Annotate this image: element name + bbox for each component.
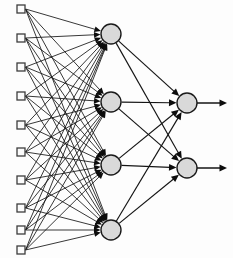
input-node-9 <box>17 226 25 234</box>
hidden-node-1 <box>101 24 121 44</box>
input-node-5 <box>17 121 25 129</box>
network-graphic <box>0 0 233 258</box>
input-node-2 <box>17 34 25 42</box>
hidden-node-4 <box>101 220 121 240</box>
input-node-1 <box>17 5 25 13</box>
input-node-7 <box>17 176 25 184</box>
input-node-4 <box>17 92 25 100</box>
hidden-node-2 <box>101 92 121 112</box>
input-node-10 <box>17 246 25 254</box>
neural-network-diagram <box>0 0 233 258</box>
output-node-1 <box>177 93 197 113</box>
edge-hidden-1-output-0 <box>121 102 170 103</box>
input-node-6 <box>17 148 25 156</box>
output-node-2 <box>177 158 197 178</box>
input-node-3 <box>17 63 25 71</box>
hidden-node-3 <box>101 155 121 175</box>
input-node-8 <box>17 204 25 212</box>
